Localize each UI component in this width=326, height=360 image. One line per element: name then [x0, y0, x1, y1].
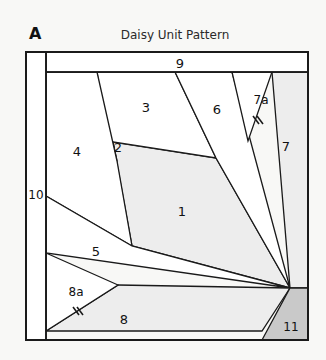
pattern-sheet: A Daisy Unit Pattern 12345677a88a91011	[0, 0, 326, 360]
piece-number-label-7: 7	[282, 139, 290, 154]
piece-number-label-7a: 7a	[254, 93, 269, 107]
piece-number-label-10: 10	[28, 188, 43, 202]
piece-number-label-5: 5	[92, 244, 100, 259]
piece-number-label-9: 9	[176, 56, 184, 71]
piece-number-label-2: 2	[114, 140, 122, 155]
block-diagram: 12345677a88a91011	[0, 0, 326, 360]
piece-number-label-8a: 8a	[69, 285, 84, 299]
piece-number-label-3: 3	[142, 100, 150, 115]
piece-number-label-4: 4	[73, 144, 81, 159]
piece-number-label-6: 6	[213, 102, 221, 117]
piece-number-label-8: 8	[120, 312, 128, 327]
piece-number-label-11: 11	[283, 320, 298, 334]
block-diagram-svg: 12345677a88a91011	[0, 0, 326, 360]
piece-number-label-1: 1	[178, 204, 186, 219]
